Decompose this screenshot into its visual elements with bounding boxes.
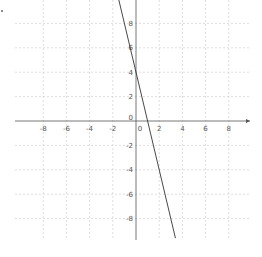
svg-text:6: 6 [203, 125, 208, 133]
svg-text:4: 4 [129, 69, 134, 77]
coordinate-plane: -8-6-4-202468-8-6-4-224680 [0, 0, 262, 257]
svg-text:-8: -8 [40, 125, 47, 133]
svg-text:-8: -8 [126, 215, 133, 223]
corner-dot [1, 10, 3, 12]
tick-labels: -8-6-4-202468-8-6-4-224680 [40, 20, 231, 223]
svg-text:-6: -6 [126, 191, 134, 199]
svg-text:0: 0 [138, 125, 142, 133]
svg-text:8: 8 [227, 125, 231, 133]
svg-text:-6: -6 [63, 125, 71, 133]
svg-text:2: 2 [129, 93, 133, 101]
svg-text:-2: -2 [109, 125, 116, 133]
svg-text:-4: -4 [126, 166, 134, 174]
function-line [116, 0, 175, 238]
svg-text:-2: -2 [126, 142, 133, 150]
svg-text:4: 4 [180, 125, 185, 133]
svg-text:8: 8 [129, 20, 133, 28]
svg-text:0: 0 [129, 114, 133, 122]
svg-text:2: 2 [157, 125, 161, 133]
svg-text:-4: -4 [86, 125, 94, 133]
